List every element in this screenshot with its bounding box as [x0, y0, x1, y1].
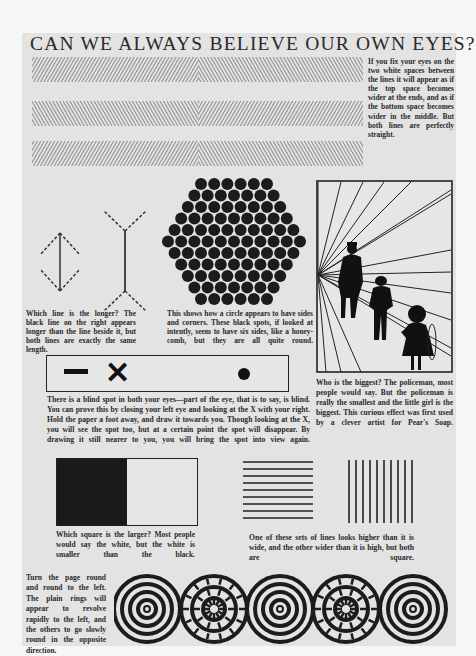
dash-symbol	[64, 369, 88, 374]
dot-icon	[238, 368, 250, 380]
horizontal-lines-figure	[243, 460, 315, 524]
hatched-lines-figure	[30, 57, 365, 167]
rings-caption: Turn the page round and round to the lef…	[26, 573, 106, 656]
perspective-figure	[316, 180, 453, 373]
black-square	[57, 459, 127, 525]
blind-spot-box: ✕	[46, 355, 289, 392]
perspective-caption: Who is the biggest? The policeman, most …	[316, 378, 453, 428]
hexagon-circles-figure	[154, 176, 314, 311]
book-page: CAN WE ALWAYS BELIEVE OUR OWN EYES? If y…	[22, 33, 456, 646]
page-title: CAN WE ALWAYS BELIEVE OUR OWN EYES?	[30, 33, 456, 55]
squares-caption: Which square is the larger? Most people …	[56, 530, 195, 560]
line-sets-caption: One of these sets of lines looks higher …	[249, 533, 414, 563]
muller-lyer-figure	[26, 203, 156, 313]
muller-lyer-caption: Which line is the longer? The black line…	[26, 309, 136, 354]
x-mark-icon: ✕	[105, 356, 130, 390]
vertical-lines-figure	[347, 460, 419, 524]
parallel-lines-caption: If you fix your eyes on the two white sp…	[368, 57, 454, 139]
hexagon-circles-caption: This shows how a circle appears to have …	[167, 309, 313, 345]
squares-figure	[56, 458, 198, 526]
blind-spot-caption: There is a blind spot in both your eyes—…	[47, 395, 310, 445]
rings-figure	[114, 573, 456, 646]
